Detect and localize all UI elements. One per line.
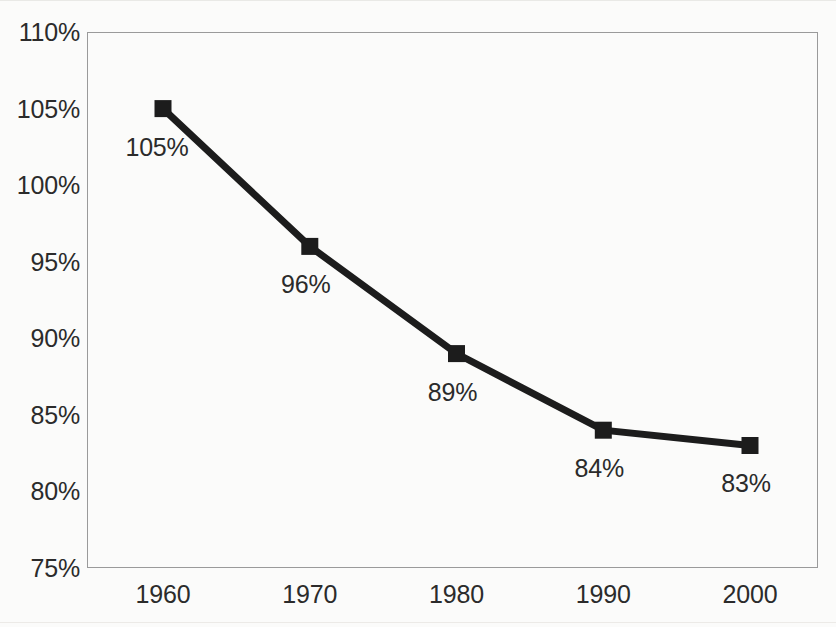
data-point-label: 105% <box>87 132 227 161</box>
data-point-label: 83% <box>676 469 816 498</box>
data-point-label: 84% <box>529 454 669 483</box>
data-point-labels: 105%96%89%84%83% <box>0 0 836 627</box>
data-point-label: 96% <box>236 270 376 299</box>
chart-page: 110%105%100%95%90%85%80%75% 196019701980… <box>0 0 836 627</box>
data-point-label: 89% <box>383 377 523 406</box>
